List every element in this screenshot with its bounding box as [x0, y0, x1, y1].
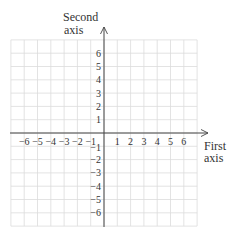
axes	[10, 27, 208, 227]
y-tick-label: 5	[96, 61, 101, 72]
y-tick-label: −5	[90, 194, 101, 205]
x-axis-label-line2: axis	[204, 151, 224, 165]
y-tick-label: −2	[90, 154, 101, 165]
x-tick-label: −4	[45, 136, 56, 147]
x-tick-labels: −6−5−4−3−2−1123456	[19, 136, 186, 147]
x-tick-label: −3	[59, 136, 70, 147]
y-tick-label: −1	[90, 142, 101, 153]
y-tick-label: −4	[90, 181, 101, 192]
y-tick-label: 4	[96, 74, 101, 85]
coordinate-plane: −6−5−4−3−2−1123456 654321−1−2−3−4−5−6 Se…	[0, 0, 235, 240]
y-tick-label: 6	[96, 48, 101, 59]
x-tick-label: 6	[181, 136, 186, 147]
y-axis-label-line2: axis	[64, 23, 84, 37]
y-axis-label-line1: Second	[63, 10, 98, 24]
y-tick-label: 2	[96, 101, 101, 112]
y-tick-label: −6	[90, 207, 101, 218]
x-tick-label: −5	[32, 136, 43, 147]
y-tick-label: −3	[90, 167, 101, 178]
x-tick-label: 3	[141, 136, 146, 147]
x-tick-label: −6	[19, 136, 30, 147]
x-tick-label: 4	[155, 136, 160, 147]
x-tick-label: 5	[168, 136, 173, 147]
y-tick-label: 3	[96, 88, 101, 99]
x-tick-label: 2	[128, 136, 133, 147]
x-tick-label: 1	[115, 136, 120, 147]
x-tick-label: −2	[72, 136, 83, 147]
y-tick-label: 1	[96, 114, 101, 125]
